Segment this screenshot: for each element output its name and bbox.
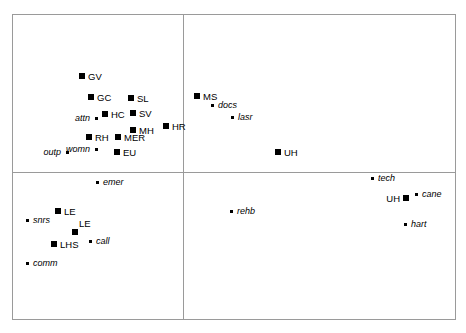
dot-marker-icon (96, 181, 99, 184)
square-marker-icon (128, 95, 134, 101)
square-marker-icon (88, 94, 94, 100)
dot-marker-icon (26, 219, 29, 222)
dot-marker-icon (371, 177, 374, 180)
square-marker-icon (275, 149, 281, 155)
dot-marker-icon (211, 104, 214, 107)
data-point-label: UH (284, 148, 298, 158)
square-marker-icon (72, 229, 78, 235)
dot-marker-icon (95, 148, 98, 151)
dot-marker-icon (231, 116, 234, 119)
square-marker-icon (115, 134, 121, 140)
data-point-label: HR (172, 122, 186, 132)
square-marker-icon (403, 195, 409, 201)
data-point-label: docs (218, 101, 237, 110)
dot-marker-icon (230, 210, 233, 213)
dot-marker-icon (89, 240, 92, 243)
data-point-label: LE (79, 219, 91, 229)
data-point-label: LHS (60, 240, 78, 250)
data-point-label: LE (64, 207, 76, 217)
data-point-label: EU (123, 148, 136, 158)
data-point-label: lasr (238, 113, 253, 122)
dot-marker-icon (26, 262, 29, 265)
data-point-label: comm (33, 259, 58, 268)
data-point-label: RH (95, 133, 109, 143)
data-point-label: HC (111, 110, 125, 120)
data-point-label: SV (139, 109, 152, 119)
square-marker-icon (163, 123, 169, 129)
vertical-axis-divider (183, 14, 184, 320)
square-marker-icon (194, 93, 200, 99)
square-marker-icon (51, 241, 57, 247)
data-point-label: GC (97, 93, 111, 103)
square-marker-icon (79, 73, 85, 79)
data-point-label: emer (103, 178, 124, 187)
dot-marker-icon (404, 223, 407, 226)
data-point-label: MS (203, 92, 217, 102)
data-point-label: tech (378, 174, 395, 183)
data-point-label: snrs (33, 216, 50, 225)
dot-marker-icon (95, 117, 98, 120)
data-point-label: GV (88, 72, 102, 82)
square-marker-icon (114, 149, 120, 155)
square-marker-icon (130, 110, 136, 116)
data-point-label: hart (411, 220, 427, 229)
data-point-label: cane (422, 190, 442, 199)
data-point-label: outp (43, 148, 61, 157)
data-point-label: womn (66, 145, 90, 154)
scatter-plot-chart: GVGCSLHCSVMHHRRHMEREUMSUHLELELHSUHattnou… (0, 0, 466, 333)
data-point-label: UH (386, 194, 400, 204)
square-marker-icon (102, 111, 108, 117)
data-point-label: call (96, 237, 110, 246)
data-point-label: rehb (237, 207, 255, 216)
square-marker-icon (55, 208, 61, 214)
plot-frame (12, 14, 456, 320)
data-point-label: MER (124, 133, 145, 143)
dot-marker-icon (415, 193, 418, 196)
square-marker-icon (86, 134, 92, 140)
data-point-label: SL (137, 94, 149, 104)
data-point-label: attn (75, 114, 90, 123)
